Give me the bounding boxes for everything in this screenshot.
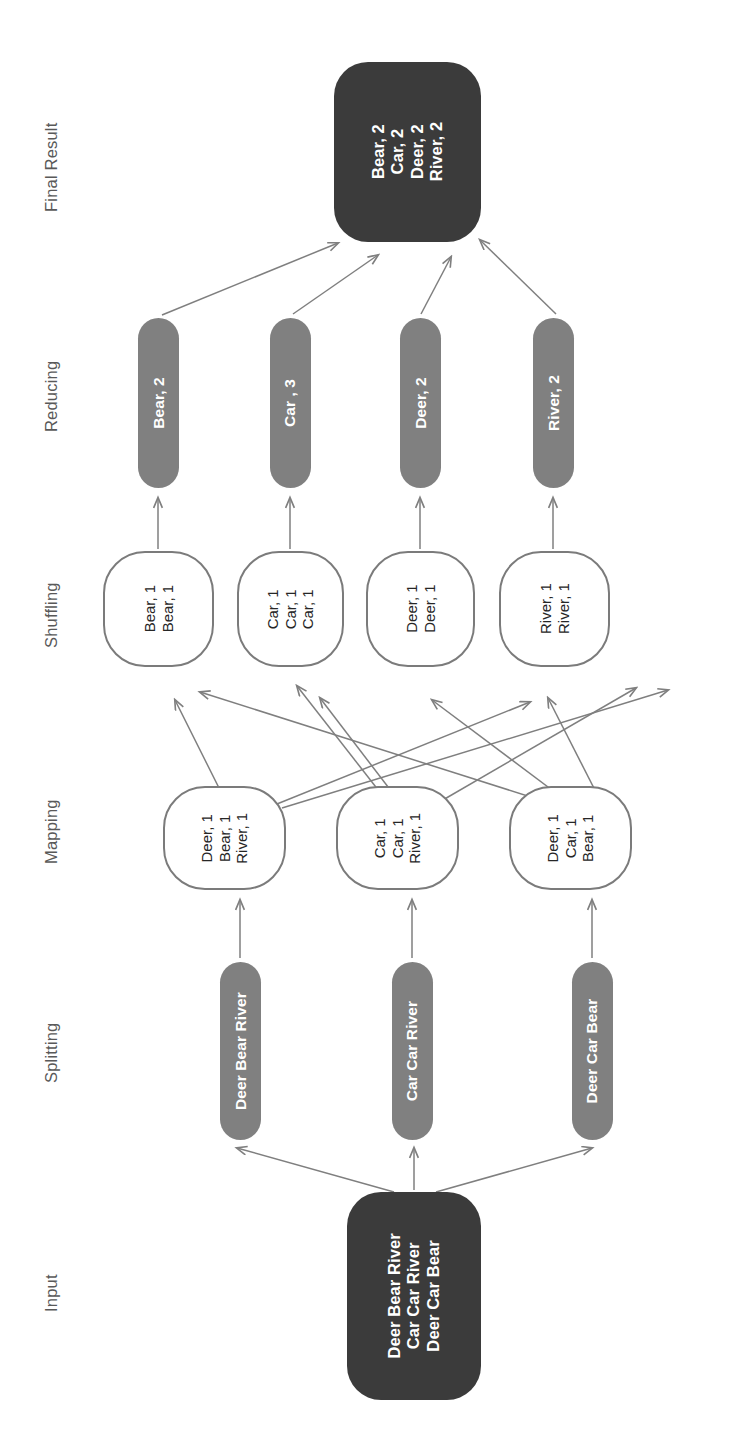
mapping-node-2-label: Car, 1 Car, 1 River, 1: [371, 813, 424, 864]
stage-label-shuffling: Shuffling: [42, 582, 61, 648]
reducing-node-car[interactable]: Car , 3: [270, 318, 311, 488]
shuffling-node-deer[interactable]: Deer, 1 Deer, 1: [366, 551, 475, 667]
arrow-shuffling-to-reducing: [158, 498, 553, 549]
final-result-text: Bear, 2 Car, 2 Deer, 2 River, 2: [369, 122, 446, 182]
reducing-node-bear[interactable]: Bear, 2: [138, 318, 179, 488]
reducing-node-deer[interactable]: Deer, 2: [400, 318, 441, 488]
arrow-reducing-to-final-result: [162, 240, 556, 315]
mapping-node-2[interactable]: Car, 1 Car, 1 River, 1: [336, 786, 459, 890]
reducing-node-river[interactable]: River, 2: [533, 318, 574, 488]
shuffling-node-bear-label: Bear, 1 Bear, 1: [141, 585, 176, 633]
mapping-node-1[interactable]: Deer, 1 Bear, 1 River, 1: [163, 786, 286, 890]
splitting-node-2[interactable]: Car Car River: [392, 962, 433, 1140]
shuffling-node-river[interactable]: River, 1 River, 1: [499, 551, 610, 667]
stage-label-final-result: Final Result: [42, 122, 61, 212]
splitting-node-3-label: Deer Car Bear: [583, 999, 601, 1104]
shuffling-node-deer-label: Deer, 1 Deer, 1: [403, 585, 438, 633]
shuffling-node-bear[interactable]: Bear, 1 Bear, 1: [103, 551, 214, 667]
splitting-node-1-label: Deer Bear River: [231, 992, 249, 1110]
shuffling-node-car[interactable]: Car, 1 Car, 1 Car, 1: [237, 551, 344, 667]
input-node[interactable]: Deer Bear River Car Car River Deer Car B…: [347, 1192, 481, 1400]
stage-label-input: Input: [42, 1274, 61, 1312]
stage-label-mapping: Mapping: [42, 799, 61, 864]
splitting-node-3[interactable]: Deer Car Bear: [572, 962, 613, 1140]
splitting-node-2-label: Car Car River: [403, 1001, 421, 1101]
stage-label-reducing: Reducing: [42, 361, 61, 432]
input-node-text: Deer Bear River Car Car River Deer Car B…: [385, 1233, 443, 1358]
reducing-node-car-label: Car , 3: [281, 379, 299, 427]
mapping-node-1-label: Deer, 1 Bear, 1 River, 1: [198, 813, 251, 864]
shuffling-node-river-label: River, 1 River, 1: [537, 584, 572, 635]
arrow-splitting-to-mapping: [240, 900, 592, 958]
shuffling-node-car-label: Car, 1 Car, 1 Car, 1: [264, 589, 317, 629]
final-result-node[interactable]: Bear, 2 Car, 2 Deer, 2 River, 2: [334, 62, 481, 242]
splitting-node-1[interactable]: Deer Bear River: [220, 962, 261, 1140]
reducing-node-deer-label: Deer, 2: [411, 377, 429, 429]
arrow-input-to-splitting: [237, 1148, 592, 1192]
reducing-node-river-label: River, 2: [544, 375, 562, 431]
mapping-node-3[interactable]: Deer, 1 Car, 1 Bear, 1: [509, 786, 632, 890]
reducing-node-bear-label: Bear, 2: [149, 377, 167, 429]
mapping-node-3-label: Deer, 1 Car, 1 Bear, 1: [544, 814, 597, 862]
stage-label-splitting: Splitting: [42, 1022, 61, 1083]
mapreduce-diagram: Final Result Reducing Shuffling Mapping …: [0, 0, 751, 1453]
